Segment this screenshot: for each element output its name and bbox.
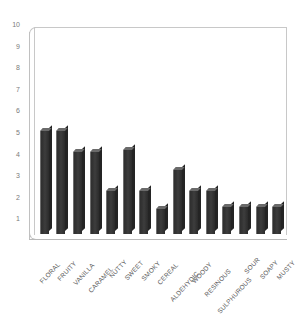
- bar-slot: [219, 28, 236, 234]
- bar-side-face: [115, 185, 118, 231]
- bar-slot: [152, 28, 169, 234]
- y-axis-tick-label: 7: [16, 85, 20, 92]
- bar-slot: [252, 28, 269, 234]
- bar-slot: [36, 28, 53, 234]
- y-axis-tick-label: 9: [16, 42, 20, 49]
- bar-side-face: [49, 125, 52, 231]
- plot-area: [29, 27, 287, 240]
- bar-side-face: [182, 164, 185, 231]
- bar: [156, 209, 165, 234]
- bar: [272, 207, 281, 234]
- bar-slot: [53, 28, 70, 234]
- bar-slot: [102, 28, 119, 234]
- bar: [239, 207, 248, 234]
- x-axis-labels: FLORALFRUITYVANILLACARAMELNUTTYSWEETSMOK…: [35, 241, 287, 303]
- bar-slot: [268, 28, 285, 234]
- bar: [206, 191, 215, 234]
- bars-layer: [35, 28, 286, 234]
- bar: [40, 131, 49, 234]
- y-axis-tick-label: 1: [16, 215, 20, 222]
- y-axis-tick-label: 6: [16, 107, 20, 114]
- y-axis-tick-label: 3: [16, 172, 20, 179]
- bar-slot: [69, 28, 86, 234]
- plot-left-edge: [29, 32, 30, 240]
- y-axis-tick-label: 8: [16, 64, 20, 71]
- plot-floor-edge: [29, 239, 287, 240]
- bar: [189, 191, 198, 234]
- bar-side-face: [99, 146, 102, 231]
- bar-side-face: [198, 185, 201, 231]
- bar-side-face: [215, 185, 218, 231]
- y-axis-tick-label: 10: [12, 21, 20, 28]
- bar-slot: [235, 28, 252, 234]
- bar-side-face: [82, 146, 85, 231]
- y-axis-tick-label: 4: [16, 150, 20, 157]
- x-axis-label-text: RESINOUS: [204, 268, 233, 298]
- bar: [56, 131, 65, 234]
- bar: [173, 170, 182, 234]
- bar: [106, 191, 115, 234]
- bar-top-face: [123, 147, 135, 150]
- bar-side-face: [132, 144, 135, 231]
- bar: [222, 207, 231, 234]
- bar-slot: [202, 28, 219, 234]
- bar-slot: [185, 28, 202, 234]
- y-axis-tick-label: 2: [16, 193, 20, 200]
- bar-slot: [119, 28, 136, 234]
- bar: [139, 191, 148, 234]
- bar: [123, 150, 132, 234]
- y-axis-tick-label: 5: [16, 129, 20, 136]
- bar-side-face: [148, 185, 151, 231]
- bar-slot: [86, 28, 103, 234]
- bar-slot: [169, 28, 186, 234]
- y-axis: 10987654321: [0, 24, 30, 240]
- bar: [90, 152, 99, 234]
- bar: [73, 152, 82, 234]
- bar-top-face: [90, 149, 102, 152]
- bar-side-face: [65, 125, 68, 231]
- bar-slot: [136, 28, 153, 234]
- bar: [256, 207, 265, 234]
